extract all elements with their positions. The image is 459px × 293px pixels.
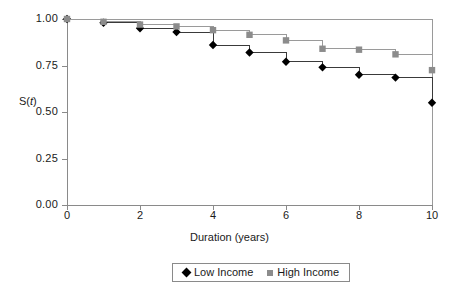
square-marker-icon bbox=[267, 270, 273, 276]
data-point-marker bbox=[392, 51, 398, 57]
series-layer bbox=[0, 0, 459, 293]
data-point-marker bbox=[356, 46, 362, 52]
data-point-marker bbox=[173, 23, 179, 29]
data-point-marker bbox=[318, 63, 326, 71]
legend-item-high-income: High Income bbox=[267, 267, 339, 278]
series-low-income bbox=[63, 15, 436, 107]
data-point-marker bbox=[355, 71, 363, 79]
diamond-marker-icon bbox=[182, 268, 192, 278]
legend-label-high-income: High Income bbox=[277, 267, 339, 278]
data-point-marker bbox=[137, 21, 143, 27]
data-point-marker bbox=[100, 19, 106, 25]
data-point-marker bbox=[209, 41, 217, 49]
data-point-marker bbox=[429, 67, 435, 73]
data-point-marker bbox=[64, 16, 70, 22]
chart-legend: Low Income High Income bbox=[172, 263, 350, 282]
data-point-marker bbox=[319, 46, 325, 52]
data-point-marker bbox=[245, 48, 253, 56]
data-point-marker bbox=[283, 37, 289, 43]
data-point-marker bbox=[282, 58, 290, 66]
data-point-marker bbox=[428, 99, 436, 107]
legend-label-low-income: Low Income bbox=[194, 267, 253, 278]
data-point-marker bbox=[210, 27, 216, 33]
data-point-marker bbox=[246, 32, 252, 38]
legend-item-low-income: Low Income bbox=[183, 267, 253, 278]
survival-curve-figure: S(t) 0.000.250.500.751.00 0246810 Durati… bbox=[0, 0, 459, 293]
